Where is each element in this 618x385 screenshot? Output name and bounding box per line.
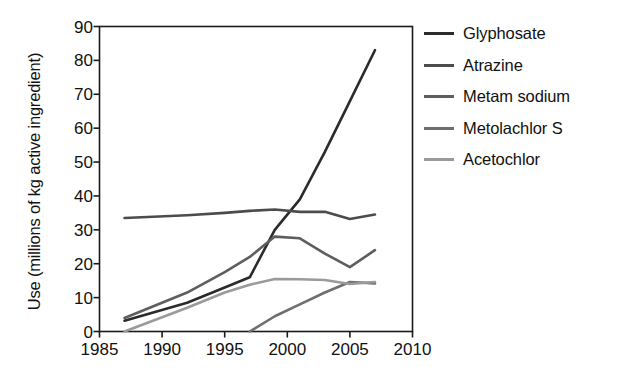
legend-swatch-acetochlor xyxy=(424,158,454,161)
chart-legend: Glyphosate Atrazine Metam sodium Metolac… xyxy=(424,18,616,176)
x-tick-1985: 1985 xyxy=(81,341,119,358)
x-tick-2010: 2010 xyxy=(394,341,432,358)
legend-swatch-atrazine xyxy=(424,64,454,67)
legend-item-atrazine: Atrazine xyxy=(424,50,616,82)
y-axis-ticks xyxy=(94,27,100,332)
legend-item-glyphosate: Glyphosate xyxy=(424,18,616,50)
legend-label-acetochlor: Acetochlor xyxy=(463,150,540,169)
plot-frame xyxy=(100,27,413,332)
legend-label-glyphosate: Glyphosate xyxy=(463,24,545,43)
x-tick-2000: 2000 xyxy=(268,341,306,358)
legend-label-atrazine: Atrazine xyxy=(463,56,523,75)
x-tick-2005: 2005 xyxy=(331,341,369,358)
legend-label-metam-sodium: Metam sodium xyxy=(463,87,570,106)
chart-figure: Use (millions of kg active ingredient) 0… xyxy=(0,0,618,385)
legend-item-metolachlor-s: Metolachlor S xyxy=(424,113,616,145)
legend-item-acetochlor: Acetochlor xyxy=(424,144,616,176)
x-axis-tick-labels: 198519901995200020052010 xyxy=(0,341,618,367)
legend-swatch-metolachlor-s xyxy=(424,127,454,130)
legend-label-metolachlor-s: Metolachlor S xyxy=(463,119,563,138)
x-tick-1990: 1990 xyxy=(143,341,181,358)
legend-swatch-metam-sodium xyxy=(424,95,454,98)
x-tick-1995: 1995 xyxy=(206,341,244,358)
legend-item-metam-sodium: Metam sodium xyxy=(424,81,616,113)
x-axis-ticks xyxy=(100,332,413,338)
legend-swatch-glyphosate xyxy=(424,32,454,35)
